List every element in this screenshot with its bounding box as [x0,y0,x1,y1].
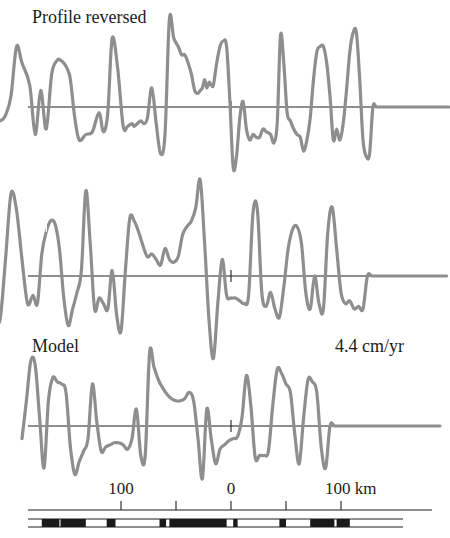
anomaly-trace [0,179,447,359]
normal-polarity-block [310,519,334,527]
normal-polarity-block [233,519,237,527]
distance-axis-ticks: 1000100 km [108,479,376,510]
trace-gap [373,0,374,63]
annotation-model: Model [32,336,79,356]
normal-polarity-block [107,519,116,527]
x-tick-label: 0 [227,479,236,498]
normal-polarity-block [169,519,226,527]
profile-panels [0,0,449,479]
anomaly-trace [22,348,440,479]
normal-polarity-block [160,519,167,527]
panel-model [22,348,440,479]
x-tick-label: 100 [108,479,134,498]
x-tick-label: 100 km [325,479,376,498]
annotation-profile-reversed: Profile reversed [32,7,146,27]
distance-axis: 1000100 km [28,479,432,510]
trace-gap [370,0,371,63]
trace-gap [43,155,44,232]
normal-polarity-block [279,519,286,527]
anomaly-trace [0,14,449,170]
normal-polarity-block [337,519,350,527]
panel-observed [0,155,447,359]
normal-polarity-block [42,519,60,527]
annotation-spreading-rate: 4.4 cm/yr [335,336,404,356]
magnetization-block-model [28,519,403,527]
trace-gap [46,155,47,232]
magnetic-anomaly-figure: Profile reversed Model 4.4 cm/yr 1000100… [0,0,450,538]
normal-polarity-block [61,519,86,527]
